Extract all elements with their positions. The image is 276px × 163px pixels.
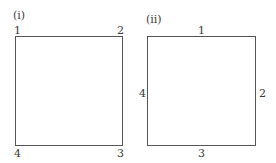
panel-i-label: (i) — [13, 10, 25, 21]
side-label-bottom: 3 — [198, 148, 205, 159]
square-i — [15, 36, 123, 146]
corner-label-bottom-left: 4 — [14, 148, 21, 159]
side-label-left: 4 — [139, 88, 146, 99]
corner-label-top-right: 2 — [117, 25, 124, 36]
corner-label-top-left: 1 — [14, 25, 21, 36]
side-label-right: 2 — [259, 88, 266, 99]
square-ii — [147, 36, 256, 146]
corner-label-bottom-right: 3 — [117, 148, 124, 159]
panel-ii-label: (ii) — [146, 14, 162, 25]
side-label-top: 1 — [198, 25, 205, 36]
